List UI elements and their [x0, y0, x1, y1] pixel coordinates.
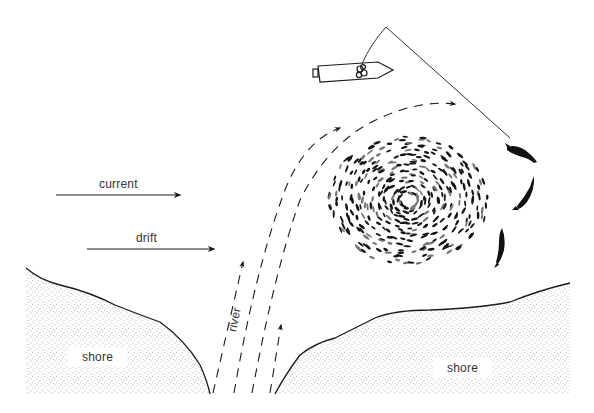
left-shore [26, 268, 210, 394]
shore-label-left: shore [68, 347, 127, 367]
predator-fish [494, 143, 537, 268]
shore-label-right: shore [433, 358, 492, 378]
fishing-line [362, 27, 510, 138]
current-label: current [99, 177, 138, 191]
boat [313, 62, 393, 82]
diagram-canvas: current drift river shore shore [0, 0, 594, 413]
right-shore [275, 283, 570, 394]
fish-school [327, 136, 488, 265]
drift-label: drift [136, 231, 157, 245]
